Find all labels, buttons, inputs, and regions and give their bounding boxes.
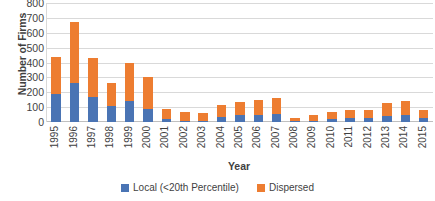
x-slot-1995: 1995 bbox=[46, 126, 64, 160]
bar-stack-2001[interactable] bbox=[162, 109, 172, 122]
x-axis-tick-2003: 2003 bbox=[197, 126, 207, 148]
bar-stack-2012[interactable] bbox=[364, 110, 374, 122]
x-axis-tick-2008: 2008 bbox=[289, 126, 299, 148]
y-axis-tick-200: 200 bbox=[26, 87, 44, 98]
bar-segment-dispersed-1995[interactable] bbox=[51, 57, 61, 94]
x-axis-tick-1995: 1995 bbox=[50, 126, 60, 148]
bar-segment-dispersed-2015[interactable] bbox=[419, 110, 429, 118]
bar-segment-local-2008[interactable] bbox=[290, 121, 300, 122]
legend-item-dispersed[interactable]: Dispersed bbox=[257, 182, 314, 193]
x-axis-tick-2005: 2005 bbox=[234, 126, 244, 148]
bar-segment-dispersed-2007[interactable] bbox=[272, 98, 282, 114]
legend-label-local: Local (<20th Percentile) bbox=[133, 182, 239, 193]
bar-stack-2013[interactable] bbox=[382, 103, 392, 122]
bar-segment-local-1998[interactable] bbox=[107, 106, 117, 122]
y-axis-tick-300: 300 bbox=[26, 72, 44, 83]
bar-segment-dispersed-1996[interactable] bbox=[70, 22, 80, 82]
bar-segment-dispersed-2002[interactable] bbox=[180, 112, 190, 120]
bar-segment-dispersed-2014[interactable] bbox=[401, 101, 411, 114]
bar-segment-dispersed-2000[interactable] bbox=[143, 77, 153, 109]
x-slot-2014: 2014 bbox=[395, 126, 413, 160]
bar-slot-2000 bbox=[139, 3, 157, 122]
y-axis-tick-0: 0 bbox=[38, 117, 44, 128]
bar-segment-local-2014[interactable] bbox=[401, 115, 411, 122]
x-slot-2011: 2011 bbox=[340, 126, 358, 160]
x-slot-2013: 2013 bbox=[377, 126, 395, 160]
bar-segment-local-1996[interactable] bbox=[70, 83, 80, 122]
bar-segment-dispersed-1997[interactable] bbox=[88, 58, 98, 97]
bar-segment-local-2001[interactable] bbox=[162, 119, 172, 122]
bar-slot-2014 bbox=[396, 3, 414, 122]
bar-segment-local-2007[interactable] bbox=[272, 114, 282, 122]
bar-segment-local-2010[interactable] bbox=[327, 119, 337, 122]
x-slot-1999: 1999 bbox=[120, 126, 138, 160]
x-axis-tick-2009: 2009 bbox=[307, 126, 317, 148]
x-axis-tick-1997: 1997 bbox=[87, 126, 97, 148]
bar-series-group bbox=[47, 3, 433, 122]
bar-segment-local-2000[interactable] bbox=[143, 109, 153, 122]
x-axis-tick-2015: 2015 bbox=[418, 126, 428, 148]
bar-stack-1998[interactable] bbox=[107, 83, 117, 122]
bar-stack-2002[interactable] bbox=[180, 112, 190, 122]
bar-stack-2014[interactable] bbox=[401, 101, 411, 122]
bar-segment-dispersed-2004[interactable] bbox=[217, 105, 227, 117]
x-axis-tick-2002: 2002 bbox=[179, 126, 189, 148]
bar-segment-local-2005[interactable] bbox=[235, 115, 245, 122]
bar-stack-2011[interactable] bbox=[345, 110, 355, 122]
bar-slot-2002 bbox=[176, 3, 194, 122]
bar-stack-2009[interactable] bbox=[309, 115, 319, 122]
bar-stack-1995[interactable] bbox=[51, 57, 61, 122]
bar-segment-dispersed-2010[interactable] bbox=[327, 112, 337, 119]
x-slot-2003: 2003 bbox=[193, 126, 211, 160]
x-axis-tick-2000: 2000 bbox=[142, 126, 152, 148]
x-axis-tick-1998: 1998 bbox=[105, 126, 115, 148]
bar-segment-dispersed-2005[interactable] bbox=[235, 102, 245, 115]
bar-segment-dispersed-2006[interactable] bbox=[254, 100, 264, 114]
x-axis-tick-2011: 2011 bbox=[344, 126, 354, 148]
bar-segment-dispersed-2013[interactable] bbox=[382, 103, 392, 116]
bar-stack-2000[interactable] bbox=[143, 77, 153, 122]
bar-slot-2015 bbox=[415, 3, 433, 122]
legend-swatch-icon-local bbox=[121, 184, 129, 192]
bar-segment-dispersed-2001[interactable] bbox=[162, 109, 172, 119]
x-slot-2000: 2000 bbox=[138, 126, 156, 160]
bar-segment-local-2015[interactable] bbox=[419, 118, 429, 122]
bar-segment-local-1995[interactable] bbox=[51, 94, 61, 122]
bar-segment-local-2012[interactable] bbox=[364, 118, 374, 122]
bar-stack-1997[interactable] bbox=[88, 58, 98, 122]
bar-segment-local-2011[interactable] bbox=[345, 118, 355, 122]
bar-stack-2008[interactable] bbox=[290, 118, 300, 122]
x-slot-2007: 2007 bbox=[267, 126, 285, 160]
bar-segment-dispersed-2003[interactable] bbox=[198, 113, 208, 120]
bar-stack-2015[interactable] bbox=[419, 110, 429, 122]
bar-slot-1995 bbox=[47, 3, 65, 122]
legend-label-dispersed: Dispersed bbox=[269, 182, 314, 193]
bar-slot-1997 bbox=[84, 3, 102, 122]
x-axis-tick-1996: 1996 bbox=[69, 126, 79, 148]
x-slot-2002: 2002 bbox=[175, 126, 193, 160]
bar-stack-2004[interactable] bbox=[217, 105, 227, 122]
bar-stack-2010[interactable] bbox=[327, 112, 337, 122]
bar-segment-local-2003[interactable] bbox=[198, 121, 208, 122]
bar-segment-dispersed-2012[interactable] bbox=[364, 110, 374, 118]
bar-segment-local-2013[interactable] bbox=[382, 116, 392, 122]
bar-stack-2005[interactable] bbox=[235, 102, 245, 122]
bar-segment-local-1997[interactable] bbox=[88, 97, 98, 122]
bar-segment-dispersed-2011[interactable] bbox=[345, 110, 355, 118]
bar-stack-1999[interactable] bbox=[125, 63, 135, 122]
bar-stack-1996[interactable] bbox=[70, 22, 80, 122]
bar-segment-local-2006[interactable] bbox=[254, 115, 264, 122]
y-axis-tick-400: 400 bbox=[26, 57, 44, 68]
bar-segment-local-1999[interactable] bbox=[125, 101, 135, 122]
bar-stack-2007[interactable] bbox=[272, 98, 282, 122]
bar-segment-local-2002[interactable] bbox=[180, 121, 190, 122]
legend-item-local[interactable]: Local (<20th Percentile) bbox=[121, 182, 239, 193]
x-slot-2010: 2010 bbox=[322, 126, 340, 160]
bar-segment-local-2009[interactable] bbox=[309, 121, 319, 122]
bar-segment-dispersed-1998[interactable] bbox=[107, 83, 117, 107]
bar-stack-2006[interactable] bbox=[254, 100, 264, 122]
bar-stack-2003[interactable] bbox=[198, 113, 208, 122]
bar-segment-dispersed-1999[interactable] bbox=[125, 63, 135, 101]
x-axis-tick-2006: 2006 bbox=[252, 126, 262, 148]
bar-segment-local-2004[interactable] bbox=[217, 117, 227, 122]
